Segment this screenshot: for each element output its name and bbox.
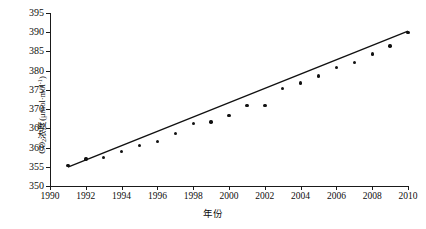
x-axis-tick-label: 1996	[148, 192, 167, 202]
y-axis-tick	[46, 13, 50, 14]
data-point	[209, 120, 212, 123]
x-axis-tick-label: 2002	[255, 192, 274, 202]
y-axis-tick	[46, 32, 50, 33]
x-axis-tick-label: 2004	[291, 192, 310, 202]
trend-line-svg	[50, 13, 408, 186]
y-axis-tick	[46, 71, 50, 72]
x-axis-tick-label: 2000	[220, 192, 239, 202]
y-axis-tick-label: 380	[29, 66, 44, 76]
y-axis-tick-label: 365	[29, 123, 44, 133]
x-axis-tick	[265, 186, 266, 190]
data-point	[335, 66, 338, 69]
y-axis-tick	[46, 90, 50, 91]
data-point	[227, 114, 230, 117]
data-point	[245, 104, 248, 107]
y-axis-tick-label: 385	[29, 46, 44, 56]
y-axis-tick-label: 350	[29, 181, 44, 191]
y-axis-tick	[46, 186, 50, 187]
data-point	[299, 81, 302, 84]
data-point	[353, 61, 356, 64]
x-axis-tick	[408, 186, 409, 190]
x-axis-tick-label: 1994	[112, 192, 131, 202]
y-axis-tick	[46, 167, 50, 168]
plot-area: 350355360365370375380385390395	[50, 13, 408, 186]
x-axis-tick	[336, 186, 337, 190]
data-point	[406, 31, 409, 34]
y-axis-tick	[46, 148, 50, 149]
data-point	[263, 104, 266, 107]
x-axis-tick	[193, 186, 194, 190]
x-axis-tick-label: 1990	[41, 192, 60, 202]
x-axis-tick	[301, 186, 302, 190]
x-axis-tick-label: 2006	[327, 192, 346, 202]
x-axis-tick-label: 2008	[363, 192, 382, 202]
x-axis-tick	[372, 186, 373, 190]
data-point	[371, 52, 374, 55]
x-axis-title: 年份	[0, 206, 426, 220]
x-axis-tick	[157, 186, 158, 190]
y-axis-tick-label: 360	[29, 143, 44, 153]
y-axis-tick	[46, 109, 50, 110]
y-axis-tick-label: 395	[29, 8, 44, 18]
x-axis-tick-label: 1992	[76, 192, 95, 202]
y-axis-tick	[46, 128, 50, 129]
data-point	[388, 44, 391, 47]
y-axis-tick-label: 375	[29, 85, 44, 95]
data-point	[66, 164, 69, 167]
y-axis-tick-label: 390	[29, 27, 44, 37]
co2-concentration-chart: CO2浓度(μmol·mol-1) 1990199219941996199820…	[0, 0, 426, 229]
y-axis-tick	[46, 51, 50, 52]
y-axis-tick-label: 355	[29, 162, 44, 172]
x-axis-line: 1990199219941996199820002002200420062008…	[50, 186, 408, 187]
x-axis-tick	[86, 186, 87, 190]
x-axis-tick-label: 2010	[399, 192, 418, 202]
y-axis-tick-label: 370	[29, 104, 44, 114]
trend-line	[68, 31, 408, 167]
x-axis-tick-label: 1998	[184, 192, 203, 202]
data-point	[317, 74, 320, 77]
x-axis-tick	[122, 186, 123, 190]
data-point	[84, 157, 87, 160]
x-axis-tick	[229, 186, 230, 190]
x-axis-tick	[50, 186, 51, 190]
